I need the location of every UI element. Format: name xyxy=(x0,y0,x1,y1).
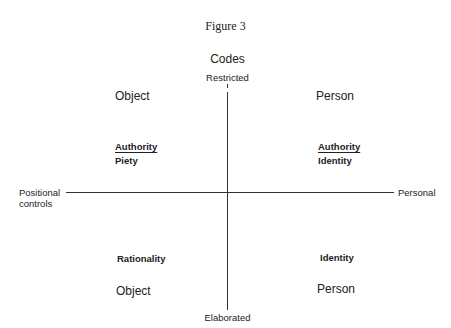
bottom-left-rationality: Rationality xyxy=(117,253,166,264)
top-left-piety: Piety xyxy=(115,155,138,166)
horizontal-axis-line xyxy=(66,192,394,193)
vertical-axis-tick xyxy=(227,84,228,88)
elaborated-label: Elaborated xyxy=(0,312,451,323)
positional-controls-label: Positional controls xyxy=(19,187,60,209)
top-left-object: Object xyxy=(115,89,150,103)
positional-label-line2: controls xyxy=(19,198,60,209)
bottom-right-identity: Identity xyxy=(320,252,354,263)
personal-label: Personal xyxy=(398,187,436,198)
bottom-right-person: Person xyxy=(317,282,355,296)
bottom-left-object: Object xyxy=(116,284,151,298)
top-right-identity: Identity xyxy=(318,155,352,166)
top-right-authority: Authority xyxy=(318,141,360,152)
vertical-axis-line xyxy=(227,92,228,310)
figure-title: Figure 3 xyxy=(0,19,451,34)
top-right-person: Person xyxy=(316,89,354,103)
positional-label-line1: Positional xyxy=(19,187,60,198)
restricted-label: Restricted xyxy=(0,72,451,83)
top-left-authority: Authority xyxy=(115,141,157,152)
codes-heading: Codes xyxy=(0,52,451,66)
